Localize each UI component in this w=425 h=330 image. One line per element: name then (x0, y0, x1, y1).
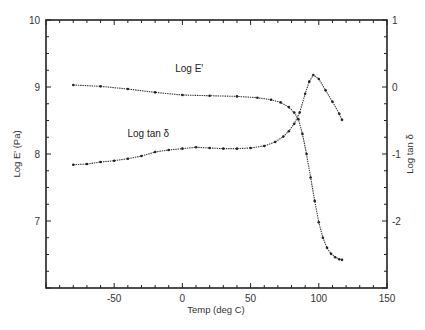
y-axis-left-title: Log E' (Pa) (11, 130, 22, 177)
data-point (222, 147, 225, 150)
y2-tick-label: -2 (392, 216, 401, 227)
series-group (72, 74, 343, 262)
dma-chart: -50050100150 78910 -2-101 Temp (deg C) L… (0, 0, 425, 330)
y-tick-label: 8 (34, 149, 40, 160)
x-tick-label: -50 (107, 293, 122, 304)
data-point (287, 106, 290, 109)
y2-tick-label: 0 (392, 82, 398, 93)
data-point (309, 176, 312, 179)
data-point (99, 85, 102, 88)
y-axis-left: 78910 (29, 15, 51, 288)
data-point (270, 98, 273, 101)
data-point (331, 100, 334, 103)
data-point (236, 95, 239, 98)
data-point (341, 259, 344, 262)
data-point (318, 78, 321, 81)
data-point (326, 247, 329, 250)
data-point (338, 258, 341, 261)
data-point (338, 113, 341, 116)
y-tick-label: 9 (34, 82, 40, 93)
data-point (127, 88, 130, 91)
data-point (167, 149, 170, 152)
data-point (305, 153, 308, 156)
data-point (154, 151, 157, 154)
data-point (274, 141, 277, 144)
y-axis-right-title: Log tan δ (404, 134, 415, 174)
data-point (324, 89, 327, 92)
y-axis-right: -2-101 (382, 15, 401, 288)
data-point (341, 119, 344, 122)
data-point (208, 94, 211, 97)
data-point (181, 147, 184, 150)
x-tick-label: 50 (245, 293, 257, 304)
data-point (293, 123, 296, 126)
series-log-e (72, 84, 343, 261)
data-point (322, 236, 325, 239)
data-point (298, 111, 301, 114)
x-tick-label: 150 (379, 293, 396, 304)
annotation-log-e: Log E' (175, 63, 203, 74)
annotation-log-tan-delta: Log tan δ (127, 128, 169, 139)
data-point (181, 94, 184, 97)
y2-tick-label: 1 (392, 15, 398, 26)
data-point (318, 221, 321, 224)
data-point (304, 92, 307, 95)
data-point (208, 147, 211, 150)
y2-tick-label: -1 (392, 149, 401, 160)
data-point (99, 161, 102, 164)
series-line (73, 85, 342, 260)
data-point (72, 84, 75, 87)
plot-frame (46, 20, 387, 288)
data-point (140, 155, 143, 158)
data-point (236, 147, 239, 150)
data-point (312, 74, 315, 77)
data-point (293, 111, 296, 114)
data-point (113, 159, 116, 162)
data-point (313, 200, 316, 203)
x-axis-title: Temp (deg C) (187, 304, 245, 315)
data-point (72, 163, 75, 166)
data-point (195, 146, 198, 149)
x-tick-label: 0 (180, 293, 186, 304)
data-point (249, 147, 252, 150)
data-point (308, 80, 311, 83)
data-point (330, 253, 333, 256)
data-point (279, 101, 282, 104)
y-tick-label: 7 (34, 216, 40, 227)
x-tick-label: 100 (310, 293, 327, 304)
data-point (127, 157, 130, 160)
data-point (334, 256, 337, 259)
data-point (263, 145, 266, 148)
data-point (301, 133, 304, 136)
series-line (73, 75, 342, 165)
y-tick-label: 10 (29, 15, 41, 26)
data-point (282, 135, 285, 138)
data-point (154, 91, 157, 94)
data-point (287, 130, 290, 133)
data-point (86, 163, 89, 166)
plot-border (46, 20, 387, 288)
data-point (256, 96, 259, 99)
